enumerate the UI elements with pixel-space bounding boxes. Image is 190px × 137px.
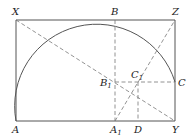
label-Y: Y [172,124,180,135]
arc-A-B-C [15,24,175,121]
dashed-construction-lines [16,20,175,121]
geometry-diagram: X B Z B1 C1 C A A1 D Y [0,0,190,137]
label-C1: C1 [131,69,143,82]
point-labels: X B Z B1 C1 C A A1 D Y [11,6,186,137]
label-D: D [133,124,142,135]
segment-XY [16,20,175,121]
label-B: B [110,6,118,17]
label-A1: A1 [109,124,122,137]
label-A: A [11,124,19,135]
label-B1: B1 [99,77,112,90]
label-X: X [11,6,20,17]
label-Z: Z [171,6,180,17]
diagram-svg: X B Z B1 C1 C A A1 D Y [0,0,190,137]
label-C: C [178,77,186,88]
segment-A1Z [115,20,175,121]
